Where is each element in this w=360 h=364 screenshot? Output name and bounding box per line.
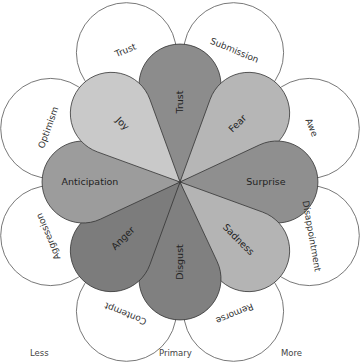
- legend-more: More: [281, 348, 302, 358]
- label-trust: Trust: [174, 90, 185, 114]
- emotion-wheel: TrustFearSurpriseSadnessDisgustAngerAnti…: [0, 0, 360, 364]
- label-surprise: Surprise: [246, 176, 285, 187]
- label-anticipation: Anticipation: [62, 176, 119, 187]
- legend-primary: Primary: [159, 348, 192, 358]
- label-disgust: Disgust: [174, 244, 185, 280]
- legend-less: Less: [30, 348, 49, 358]
